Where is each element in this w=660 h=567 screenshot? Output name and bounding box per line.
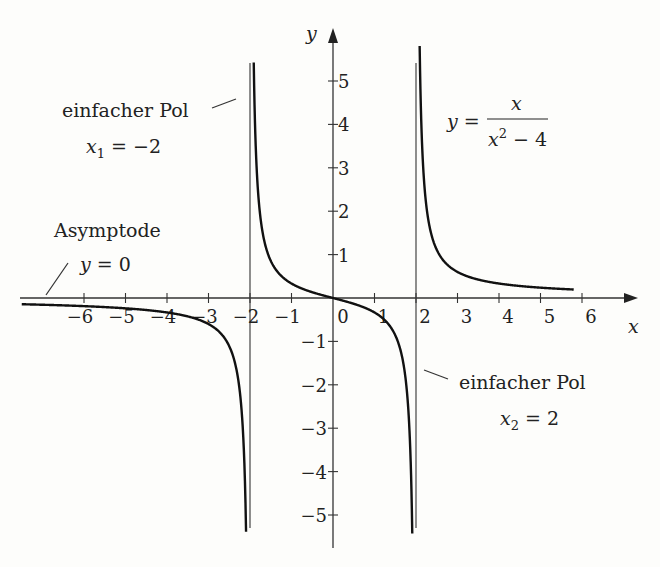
pole2-equation: x2 = 2: [500, 407, 559, 433]
asymptote-leader: [46, 263, 68, 295]
y-axis-label: y: [305, 22, 317, 44]
x-tick-label: 0: [337, 306, 348, 327]
asymptote-title: Asymptode: [53, 219, 161, 241]
pole1-equation: x1 = −2: [86, 135, 161, 161]
x-axis-arrow-icon: [624, 293, 638, 303]
y-tick-label: 5: [338, 71, 349, 92]
pole2-title: einfacher Pol: [459, 371, 586, 393]
y-tick-label: −1: [300, 331, 327, 352]
x-tick-label: −3: [191, 306, 218, 327]
x-tick-label: 6: [585, 306, 596, 327]
svg-text:y =: y =: [446, 110, 480, 132]
pole2-leader: [424, 370, 448, 379]
x-tick-label: 5: [544, 306, 555, 327]
function-plot: −6−5−4−3−2−10123456 54321−1−2−3−4−5 x y …: [0, 0, 660, 567]
svg-text:x: x: [511, 92, 522, 114]
x-tick-label: −2: [233, 306, 260, 327]
curve-left-branch: [22, 304, 246, 531]
x-tick-label: 2: [419, 306, 430, 327]
x-tick-label: 3: [461, 306, 472, 327]
y-tick-label: −3: [300, 418, 327, 439]
y-tick-label: −5: [300, 505, 327, 526]
y-tick-label: −2: [300, 375, 327, 396]
x-axis-label: x: [628, 315, 639, 337]
svg-text:x2 − 4: x2 − 4: [488, 126, 547, 150]
y-axis-arrow-icon: [328, 28, 338, 43]
pole1-leader: [212, 99, 236, 108]
y-tick-label: 4: [338, 114, 349, 135]
y-tick-label: −4: [300, 462, 327, 483]
y-tick-label: 2: [338, 201, 349, 222]
x-tick-label: 4: [502, 306, 513, 327]
y-tick-label: 1: [338, 245, 349, 266]
x-tick-label: −4: [150, 306, 177, 327]
function-formula: y = x x2 − 4: [446, 92, 548, 150]
pole1-title: einfacher Pol: [62, 99, 189, 121]
asymptote-equation: y = 0: [79, 253, 131, 275]
x-tick-label: −1: [274, 306, 301, 327]
x-tick-label: −6: [67, 306, 94, 327]
y-tick-label: 3: [338, 158, 349, 179]
curve-right-branch: [420, 46, 574, 289]
